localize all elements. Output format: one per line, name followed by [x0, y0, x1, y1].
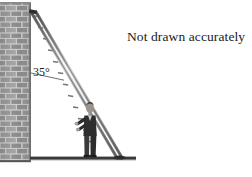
brick-wall [0, 2, 31, 162]
person [75, 102, 97, 157]
ladder-base-shadow [113, 156, 125, 160]
figure-caption: Not drawn accurately [127, 29, 245, 45]
angle-label: 35° [33, 65, 50, 80]
person-leg-right [90, 136, 96, 157]
ladder [29, 9, 126, 159]
person-shoe-left [84, 155, 90, 157]
person-neck [88, 112, 91, 115]
ladder-against-wall-figure: 35° Not drawn accurately [0, 0, 252, 177]
person-head [86, 103, 94, 113]
person-shoe-right [90, 155, 97, 157]
figure-canvas [0, 0, 252, 177]
person-hand-upper [75, 122, 79, 126]
person-hand-lower [76, 128, 80, 132]
person-leg-left [84, 136, 89, 157]
